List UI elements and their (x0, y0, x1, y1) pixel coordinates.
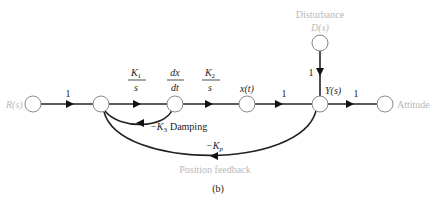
node-output (312, 96, 328, 112)
svg-text:K2: K2 (204, 67, 216, 80)
svg-text:s: s (208, 82, 212, 93)
label-disturbance: Disturbance (296, 9, 345, 20)
label-x-t: x(t) (239, 83, 255, 95)
signal-flow-graph: R(s) Attitude Disturbance D(s) x(t) Y(s)… (0, 0, 436, 198)
label-position-feedback: Position feedback (179, 164, 250, 175)
node-attitude (377, 96, 393, 112)
gain-k2-over-s: K2 s (202, 67, 220, 93)
svg-text:−Kp: −Kp (206, 140, 223, 153)
gain-n4-to-y: 1 (282, 88, 287, 99)
label-damping: −K3Damping (150, 121, 207, 134)
label-output: Y(s) (325, 85, 342, 97)
label-input: R(s) (5, 99, 23, 111)
node-input (25, 96, 41, 112)
gain-y-to-attitude: 1 (354, 88, 359, 99)
figure-caption: (b) (212, 183, 224, 195)
gain-r-to-n2: 1 (66, 88, 71, 99)
label-disturbance-symbol: D(s) (310, 22, 329, 34)
label-dx-dt: dx dt (167, 67, 184, 93)
svg-text:K1: K1 (130, 67, 142, 80)
node-2 (93, 96, 109, 112)
node-3 (167, 96, 183, 112)
svg-text:dt: dt (171, 82, 179, 93)
svg-text:dx: dx (170, 67, 180, 78)
label-attitude: Attitude (397, 99, 430, 110)
node-disturbance (312, 35, 328, 51)
gain-d-to-y: 1 (309, 67, 314, 78)
svg-text:−K3Damping: −K3Damping (150, 121, 207, 134)
gain-k1-over-s: K1 s (128, 67, 146, 93)
svg-text:s: s (134, 82, 138, 93)
node-4 (239, 96, 255, 112)
label-position-feedback-gain: −Kp (206, 140, 223, 153)
